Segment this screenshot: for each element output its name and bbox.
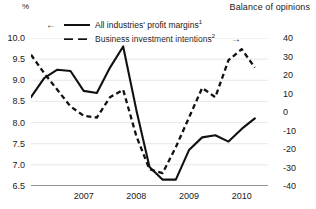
left-axis-tick-label: 7.0 <box>12 160 25 170</box>
left-axis-tick-label: 7.5 <box>12 139 25 149</box>
left-axis-tick-label: 8.0 <box>12 118 25 128</box>
left-axis-tick-label: 9.0 <box>12 75 25 85</box>
legend-item-profit-margins: ← All industries' profit margins1 <box>46 19 241 30</box>
left-arrow-icon: ← <box>46 20 64 30</box>
right-axis-tick-label: -10 <box>283 126 296 136</box>
x-axis-tick-label: 2009 <box>179 191 199 201</box>
right-axis-tick-label: 40 <box>283 33 293 43</box>
right-axis-ticks: 403020100-10-20-30-40 <box>276 38 316 186</box>
right-axis-title: Balance of opinions <box>230 2 310 12</box>
legend-label-profit-margins: All industries' profit margins1 <box>95 19 202 30</box>
footnote-marker-1: 1 <box>199 19 202 25</box>
right-axis-tick-label: 30 <box>283 52 293 62</box>
left-axis-tick-label: 6.5 <box>12 181 25 191</box>
chart-container: % Balance of opinions ← All industries' … <box>0 0 316 209</box>
left-axis-unit-label: % <box>22 2 29 11</box>
legend-swatch-solid <box>64 20 90 29</box>
series-line-investment-intentions <box>31 49 255 173</box>
right-axis-tick-label: -40 <box>283 181 296 191</box>
right-axis-tick-label: 0 <box>283 107 288 117</box>
x-axis-tick-label: 2008 <box>126 191 146 201</box>
series-line-profit-margins <box>31 46 255 179</box>
left-axis-tick-label: 8.5 <box>12 96 25 106</box>
left-axis-ticks: 10.09.59.08.58.07.57.06.5 <box>0 38 29 186</box>
right-axis-tick-label: -20 <box>283 144 296 154</box>
right-axis-tick-label: 20 <box>283 70 293 80</box>
chart-svg <box>31 38 268 186</box>
plot-area <box>31 38 268 186</box>
x-axis-tick-label: 2007 <box>74 191 94 201</box>
left-axis-tick-label: 9.5 <box>12 54 25 64</box>
right-axis-tick-label: 10 <box>283 89 293 99</box>
left-axis-tick-label: 10.0 <box>7 33 25 43</box>
x-axis-tick-label: 2010 <box>232 191 252 201</box>
right-axis-tick-label: -30 <box>283 163 296 173</box>
